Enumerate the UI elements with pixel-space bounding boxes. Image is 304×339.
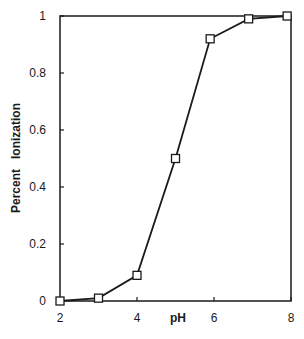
x-axis-title: pH: [170, 311, 186, 325]
data-point-marker: [133, 271, 141, 279]
y-tick-label: 1: [39, 9, 46, 23]
x-tick-label: 6: [211, 311, 218, 325]
data-point-marker: [245, 15, 253, 23]
ionization-chart: 00.20.40.60.81 2468 pH Percent Ionizatio…: [0, 0, 304, 339]
data-point-marker: [283, 12, 291, 20]
y-tick-label: 0.8: [29, 66, 46, 80]
data-point-marker: [95, 294, 103, 302]
y-axis-title: Percent Ionization: [9, 103, 23, 213]
y-tick-label: 0.2: [29, 237, 46, 251]
y-axis-ticks: 00.20.40.60.81: [29, 9, 64, 308]
data-markers: [56, 12, 291, 305]
y-tick-label: 0.4: [29, 180, 46, 194]
x-tick-label: 2: [57, 311, 64, 325]
data-point-marker: [206, 35, 214, 43]
y-tick-label: 0: [39, 294, 46, 308]
data-point-marker: [56, 297, 64, 305]
x-tick-label: 8: [288, 311, 295, 325]
y-tick-label: 0.6: [29, 123, 46, 137]
data-point-marker: [172, 155, 180, 163]
x-tick-label: 4: [134, 311, 141, 325]
